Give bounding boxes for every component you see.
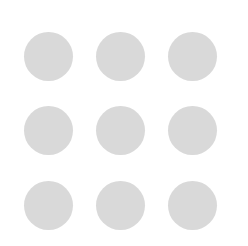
pattern-dot-1-3[interactable] bbox=[168, 32, 217, 81]
pattern-dot-2-1[interactable] bbox=[24, 106, 73, 155]
pattern-dot-1-2[interactable] bbox=[96, 32, 145, 81]
pattern-grid bbox=[0, 0, 248, 246]
pattern-dot-1-1[interactable] bbox=[24, 32, 73, 81]
pattern-dot-2-2[interactable] bbox=[96, 106, 145, 155]
pattern-dot-3-3[interactable] bbox=[168, 181, 217, 230]
pattern-dot-3-1[interactable] bbox=[24, 181, 73, 230]
pattern-dot-2-3[interactable] bbox=[168, 106, 217, 155]
pattern-dot-3-2[interactable] bbox=[96, 181, 145, 230]
